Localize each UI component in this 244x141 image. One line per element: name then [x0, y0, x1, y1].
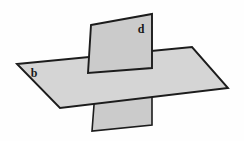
label-plane-d: d	[138, 22, 145, 36]
planes-svg-canvas: b d	[0, 0, 244, 141]
label-plane-b: b	[31, 66, 38, 80]
geometry-diagram: b d	[0, 0, 244, 141]
